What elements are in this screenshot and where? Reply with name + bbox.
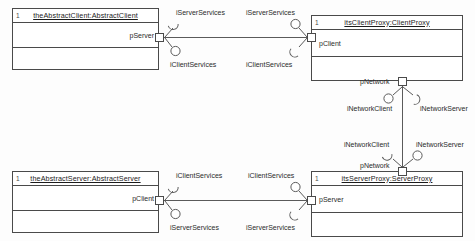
label-iserverservices-top-right: iServerServices — [246, 8, 295, 17]
component-body-lower — [312, 213, 462, 236]
component-client-proxy[interactable]: 1 itsClientProxy:ClientProxy pClient — [311, 15, 463, 81]
component-body-upper: pClient — [312, 30, 462, 57]
label-iclientservices-bottom-left: iClientServices — [176, 171, 222, 180]
label-iclientservices-top-left: iClientServices — [170, 60, 216, 69]
port-pnetwork-server-proxy[interactable] — [398, 167, 407, 176]
multiplicity-marker: 1 — [16, 173, 20, 184]
port-pserver-server-proxy[interactable] — [307, 196, 316, 205]
port-pserver-abstract-client[interactable] — [155, 33, 164, 42]
port-pnetwork-client-proxy[interactable] — [398, 77, 407, 86]
component-name-label: itsServerProxy:ServerProxy — [342, 174, 433, 184]
label-iserverservices-bottom-left: iServerServices — [170, 223, 219, 232]
component-body-lower — [13, 211, 158, 232]
label-iclientservices-top-right: iClientServices — [246, 60, 292, 69]
component-body-upper: pServer — [312, 186, 462, 213]
component-title-bar: 1 itsClientProxy:ClientProxy — [312, 16, 462, 30]
label-inetworkclient-bottom: iNetworkClient — [344, 140, 389, 149]
port-label-pserver: pServer — [129, 31, 154, 40]
multiplicity-marker: 1 — [315, 173, 319, 184]
uml-composite-structure-diagram: 1 theAbstractClient:AbstractClient pServ… — [0, 0, 475, 241]
port-pclient-client-proxy[interactable] — [307, 33, 316, 42]
component-server-proxy[interactable]: 1 itsServerProxy:ServerProxy pServer — [311, 171, 463, 237]
label-inetworkserver-bottom: iNetworkServer — [416, 140, 464, 149]
label-iserverservices-top-left: iServerServices — [176, 8, 225, 17]
port-pclient-abstract-server[interactable] — [155, 196, 164, 205]
provided-interface-iserverservices-bottom-left[interactable] — [164, 200, 188, 222]
port-label-pclient: pClient — [132, 194, 154, 203]
port-label-pnetwork-top: pNetwork — [360, 77, 390, 86]
component-body-upper: pServer — [13, 23, 158, 48]
label-iserverservices-bottom-right: iServerServices — [246, 223, 295, 232]
component-title-bar: 1 theAbstractClient:AbstractClient — [13, 9, 158, 23]
port-label-pclient: pClient — [319, 39, 341, 48]
component-body-lower — [13, 48, 158, 69]
label-inetworkserver-top: iNetworkServer — [420, 104, 468, 113]
component-abstract-server[interactable]: 1 theAbstractServer:AbstractServer pClie… — [12, 171, 159, 233]
component-name-label: theAbstractServer:AbstractServer — [30, 174, 140, 184]
label-iclientservices-bottom-right: iClientServices — [248, 171, 294, 180]
component-abstract-client[interactable]: 1 theAbstractClient:AbstractClient pServ… — [12, 8, 159, 70]
component-title-bar: 1 itsServerProxy:ServerProxy — [312, 172, 462, 186]
component-name-label: theAbstractClient:AbstractClient — [33, 11, 138, 21]
component-body-upper: pClient — [13, 186, 158, 211]
label-inetworkclient-top: iNetworkClient — [347, 104, 392, 113]
component-name-label: itsClientProxy:ClientProxy — [344, 18, 429, 28]
provided-interface-iclientservices-left[interactable] — [164, 37, 188, 59]
port-label-pserver: pServer — [319, 195, 344, 204]
component-title-bar: 1 theAbstractServer:AbstractServer — [13, 172, 158, 186]
multiplicity-marker: 1 — [16, 10, 20, 21]
multiplicity-marker: 1 — [315, 17, 319, 28]
